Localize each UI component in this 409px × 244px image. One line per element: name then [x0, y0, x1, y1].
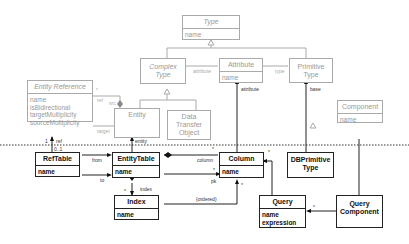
class-primitive-type[interactable]: Primitive Type: [289, 58, 333, 83]
class-index[interactable]: Index name: [114, 195, 159, 220]
label-entity: entity: [135, 138, 147, 144]
class-entity-reference[interactable]: Entity Reference name isBidirectional ta…: [27, 80, 93, 122]
label-column: column: [197, 157, 213, 163]
label-star-pk: *: [213, 167, 215, 173]
class-query-component[interactable]: Query Component: [336, 195, 383, 228]
class-index-attr: name: [115, 208, 158, 221]
class-entitytable-attr: name: [113, 165, 159, 178]
class-column-name: Column: [220, 153, 263, 165]
attr-name: name: [262, 211, 303, 219]
attr-name: name: [30, 96, 90, 104]
label-star-col-ordered: *: [241, 182, 243, 188]
label-from: from: [92, 157, 102, 163]
class-entitytable-name: EntityTable: [113, 153, 159, 165]
class-entitytable[interactable]: EntityTable name: [112, 152, 160, 178]
attr-expression: expression: [262, 219, 303, 227]
label-type-assoc: type: [275, 68, 284, 74]
class-data-transfer-object[interactable]: Data Transfer Object: [167, 110, 211, 140]
class-component-attr: name: [338, 113, 382, 126]
class-reftable-attr: name: [36, 165, 79, 178]
class-column-attr: name: [220, 165, 263, 178]
label-attribute-db: attribute: [241, 86, 259, 92]
class-type-name: Type: [183, 16, 239, 28]
label-src: src: [109, 100, 116, 106]
class-entity[interactable]: Entity: [114, 108, 160, 138]
label-pk: pk: [211, 178, 216, 184]
class-attribute[interactable]: Attribute name: [219, 58, 263, 83]
class-reftable-name: RefTable: [36, 153, 79, 165]
class-component-name: Component: [338, 101, 382, 113]
label-star-column: *: [212, 146, 214, 152]
class-dbprimitive-type[interactable]: DBPrimitive Type: [287, 152, 334, 178]
class-query-name: Query: [260, 196, 305, 208]
class-complex-type[interactable]: Complex Type: [140, 58, 186, 84]
label-to: to: [100, 177, 104, 183]
class-column[interactable]: Column name: [219, 152, 264, 178]
class-reftable[interactable]: RefTable name: [35, 152, 80, 177]
class-component[interactable]: Component name: [337, 100, 383, 123]
class-query[interactable]: Query name expression: [259, 195, 306, 228]
label-target: target: [97, 128, 110, 134]
attr-isbidirectional: isBidirectional: [30, 104, 90, 112]
label-ref: ref: [97, 97, 103, 103]
label-base: base: [310, 86, 321, 92]
label-one: 1: [45, 138, 48, 144]
label-ref-db: ref: [56, 138, 62, 144]
attr-targetmultiplicity: targetMultiplicity: [30, 111, 90, 119]
class-type[interactable]: Type name: [182, 15, 240, 40]
class-attribute-name: Attribute: [220, 59, 262, 71]
class-query-component-name: Query Component: [337, 196, 382, 218]
class-entity-reference-name: Entity Reference: [28, 81, 92, 93]
label-zero-one: 0..1: [54, 146, 62, 152]
label-star-query-col: *: [268, 149, 270, 155]
class-dbprimitive-type-name: DBPrimitive Type: [288, 153, 333, 174]
class-primitive-type-name: Primitive Type: [290, 59, 332, 81]
class-type-attr: name: [183, 28, 239, 41]
label-star-index: *: [124, 188, 126, 194]
attr-sourcemultiplicity: sourceMultiplicity: [30, 119, 90, 127]
class-entity-reference-attrs: name isBidirectional targetMultiplicity …: [28, 93, 92, 128]
label-star-query: *: [313, 204, 315, 210]
class-dto-name: Data Transfer Object: [168, 111, 210, 139]
class-index-name: Index: [115, 196, 158, 208]
class-attribute-attr: name: [220, 71, 262, 84]
label-index: index: [140, 186, 152, 192]
label-attribute-assoc: attribute: [193, 68, 211, 74]
class-entity-name: Entity: [115, 109, 159, 121]
label-ordered: {ordered}: [196, 196, 217, 202]
label-star-ref: *: [96, 87, 98, 93]
class-complex-type-name: Complex Type: [141, 59, 185, 81]
class-query-attrs: name expression: [260, 208, 305, 228]
